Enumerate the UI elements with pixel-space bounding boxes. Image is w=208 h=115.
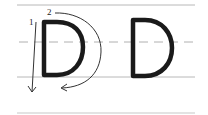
letter-d-traced (44, 22, 83, 75)
letter-d-formation-diagram: 1 2 (0, 0, 208, 115)
stroke-2-number: 2 (47, 8, 52, 17)
letter-d-plain (133, 20, 172, 76)
stroke-1-arrow-line (32, 22, 36, 92)
stroke-1-number: 1 (29, 18, 34, 27)
